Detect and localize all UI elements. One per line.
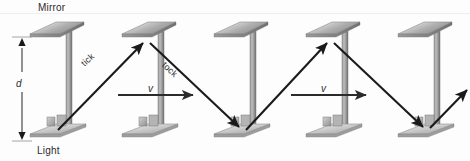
light-base <box>122 115 178 137</box>
light-clock-5 <box>398 22 454 137</box>
clock-post <box>158 31 164 130</box>
light-clock-1 <box>30 22 86 137</box>
distance-dimension <box>12 37 32 141</box>
dimension-arrow-up <box>18 38 25 46</box>
mirror-plate <box>398 22 452 37</box>
light-beam-path <box>58 43 467 130</box>
beam-segment-tick-2 <box>246 43 327 130</box>
light-clock-2 <box>122 22 178 137</box>
mirror-plate <box>122 22 176 37</box>
light-base <box>30 115 86 137</box>
light-base <box>306 115 362 137</box>
light-base <box>398 115 454 137</box>
distance-label: d <box>16 78 22 89</box>
mirror-plate <box>30 22 84 37</box>
velocity-label-2: v <box>321 83 326 94</box>
light-clock-4 <box>306 22 362 137</box>
light-label: Light <box>37 145 60 156</box>
clock-post <box>342 31 348 130</box>
diagram-canvas <box>0 0 470 161</box>
light-clock-diagram: Mirror Light d tick tock v v <box>0 0 470 161</box>
light-base <box>214 115 270 137</box>
clock-post <box>250 31 256 130</box>
velocity-label-1: v <box>148 83 153 94</box>
clock-post <box>434 31 440 130</box>
mirror-label: Mirror <box>38 2 65 13</box>
dimension-arrow-down <box>18 132 25 140</box>
mirror-plate <box>214 22 268 37</box>
light-clock-3 <box>214 22 270 137</box>
mirror-plate <box>306 22 360 37</box>
